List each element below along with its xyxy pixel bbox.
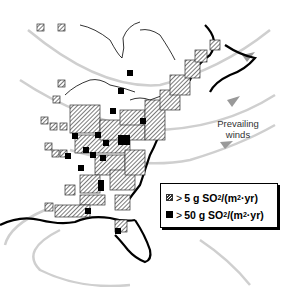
legend-item-high: > 50 g SO2/(m2·yr): [166, 206, 273, 223]
hatched-square-icon: [166, 194, 173, 201]
legend: > 5 g SO2/(m2·yr) > 50 g SO2/(m2·yr): [160, 183, 278, 228]
prevailing-winds-label: Prevailing winds: [207, 118, 269, 140]
solid-square-icon: [166, 211, 173, 218]
legend-item-moderate: > 5 g SO2/(m2·yr): [166, 189, 273, 206]
so2-emissions-map: [0, 0, 285, 287]
